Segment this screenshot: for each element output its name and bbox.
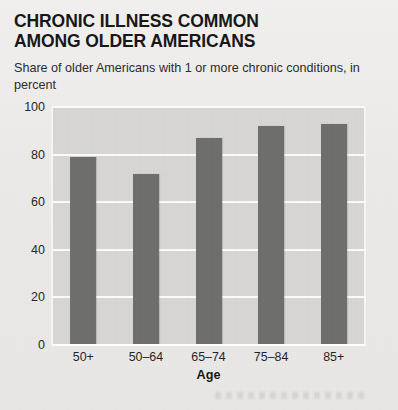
scan-artifact [215, 392, 365, 399]
chart-title-line-2: AMONG OLDER AMERICANS [14, 31, 354, 51]
chart-subtitle: Share of older Americans with 1 or more … [14, 60, 374, 93]
x-axis-tick-label: 85+ [323, 350, 344, 364]
bar [196, 138, 222, 345]
chart-title: CHRONIC ILLNESS COMMON AMONG OLDER AMERI… [14, 11, 354, 51]
y-axis-tick-label: 20 [31, 290, 45, 304]
x-axis-tick-label: 50–64 [129, 350, 163, 364]
x-axis-label: Age [52, 368, 365, 382]
bar [70, 157, 96, 345]
x-axis-tick-label: 50+ [73, 350, 94, 364]
x-axis-tick-label: 75–84 [254, 350, 288, 364]
y-axis-tick-label: 60 [31, 195, 45, 209]
bar [133, 174, 159, 345]
bar-chart: 020406080100 50+50–6465–7475–8485+ Age [0, 96, 398, 386]
y-axis-tick-label: 100 [24, 100, 45, 114]
bar [258, 126, 284, 345]
y-axis-tick-label: 40 [31, 243, 45, 257]
y-axis-tick-label: 80 [31, 148, 45, 162]
y-axis-tick-label: 0 [38, 338, 45, 352]
axis-baseline [52, 344, 365, 346]
chart-title-line-1: CHRONIC ILLNESS COMMON [14, 11, 259, 31]
bar-series [52, 107, 365, 345]
x-axis-tick-label: 65–74 [191, 350, 225, 364]
bar [321, 124, 347, 345]
plot-area [52, 107, 365, 345]
